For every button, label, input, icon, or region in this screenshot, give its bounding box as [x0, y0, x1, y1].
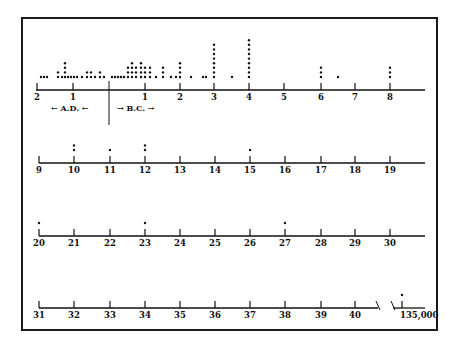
tick-label: 24 [174, 238, 186, 248]
data-dot [213, 71, 215, 73]
data-dot [248, 76, 250, 78]
timeline-rows: 2112345678910111213141516171819202122232… [33, 39, 438, 321]
data-dot [179, 67, 181, 69]
data-dot [103, 76, 105, 78]
tick-label: 22 [104, 238, 116, 248]
data-dot [248, 39, 250, 41]
tick-label: 40 [349, 310, 361, 320]
data-dot [320, 67, 322, 69]
data-dot [38, 222, 40, 224]
data-dot [149, 71, 151, 73]
tick-label: 23 [139, 238, 151, 248]
data-dot [99, 71, 101, 73]
data-dot [190, 76, 192, 78]
tick-label: 28 [315, 238, 327, 248]
data-dot [64, 62, 66, 64]
data-dot [144, 222, 146, 224]
tick-label: 2 [34, 92, 40, 102]
tick-label: 14 [209, 165, 221, 175]
data-dot [114, 76, 116, 78]
data-dot [213, 48, 215, 50]
data-dot [90, 76, 92, 78]
data-dot [57, 71, 59, 73]
data-dot [140, 76, 142, 78]
tick-label: 38 [279, 310, 291, 320]
data-dot [70, 76, 72, 78]
tick-label: 1 [142, 92, 148, 102]
data-dot [123, 76, 125, 78]
dot-plot-chart: 2112345678910111213141516171819202122232… [0, 0, 458, 350]
tick-label: 135,000 [400, 310, 439, 321]
bc-era-label: → B.C. → [117, 103, 155, 113]
timeline-row: 31323334353637383940135,000 [33, 294, 438, 321]
data-dot [389, 71, 391, 73]
data-dot [149, 76, 151, 78]
data-dot [131, 71, 133, 73]
data-dot [162, 76, 164, 78]
tick-label: 39 [315, 310, 327, 320]
data-dot [213, 62, 215, 64]
data-dot [213, 53, 215, 55]
data-dot [144, 149, 146, 151]
tick-label: 35 [174, 310, 186, 320]
tick-label: 19 [384, 165, 396, 175]
data-dot [389, 76, 391, 78]
data-dot [67, 76, 69, 78]
tick-label: 9 [36, 165, 42, 175]
tick-label: 1 [70, 92, 76, 102]
data-dot [249, 149, 251, 151]
tick-label: 25 [209, 238, 221, 248]
data-dot [135, 67, 137, 69]
tick-label: 13 [174, 165, 186, 175]
tick-label: 2 [177, 92, 183, 102]
data-dot [284, 222, 286, 224]
data-dot [155, 76, 157, 78]
tick-label: 6 [318, 92, 324, 102]
tick-label: 4 [246, 92, 252, 102]
timeline-row: 2021222324252627282930 [33, 222, 425, 248]
tick-label: 7 [352, 92, 358, 102]
data-dot [73, 149, 75, 151]
tick-label: 26 [244, 238, 256, 248]
data-dot [389, 67, 391, 69]
tick-label: 10 [68, 165, 80, 175]
tick-label: 16 [279, 165, 291, 175]
data-dot [248, 71, 250, 73]
data-dot [248, 57, 250, 59]
tick-label: 5 [281, 92, 287, 102]
data-dot [73, 76, 75, 78]
data-dot [61, 76, 63, 78]
data-dot [248, 48, 250, 50]
timeline-row: 2112345678 [34, 39, 425, 125]
data-dot [213, 76, 215, 78]
data-dot [140, 71, 142, 73]
data-dot [202, 76, 204, 78]
data-dot [135, 76, 137, 78]
data-dot [179, 71, 181, 73]
ad-era-label: ← A.D. ← [51, 103, 89, 113]
data-dot [248, 67, 250, 69]
data-dot [144, 71, 146, 73]
data-dot [64, 71, 66, 73]
data-dot [131, 67, 133, 69]
data-dot [127, 76, 129, 78]
data-dot [109, 149, 111, 151]
tick-label: 30 [384, 238, 396, 248]
tick-label: 15 [244, 165, 256, 175]
data-dot [401, 294, 403, 296]
data-dot [64, 67, 66, 69]
data-dot [86, 76, 88, 78]
data-dot [140, 62, 142, 64]
data-dot [170, 76, 172, 78]
data-dot [127, 71, 129, 73]
tick-label: 12 [139, 165, 151, 175]
data-dot [43, 76, 45, 78]
tick-label: 27 [279, 238, 291, 248]
data-dot [248, 44, 250, 46]
data-dot [117, 76, 119, 78]
data-dot [337, 76, 339, 78]
data-dot [205, 76, 207, 78]
data-dot [131, 62, 133, 64]
data-dot [231, 76, 233, 78]
data-dot [175, 76, 177, 78]
